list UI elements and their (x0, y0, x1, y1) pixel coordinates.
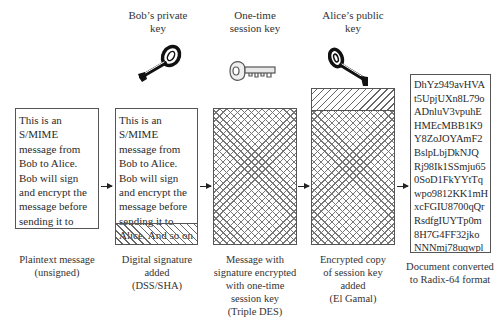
alice-public-key-label: Alice’s public key (303, 9, 403, 35)
encrypted-content-pattern (214, 109, 296, 244)
bob-private-key-label: Bob’s private key (108, 9, 208, 35)
alice-public-key-icon (328, 46, 372, 88)
signed-message-box: This is an S/MIME message from Bob to Al… (115, 108, 198, 245)
caption-session-key-copy: Encrypted copy of session key added (El … (298, 253, 408, 305)
digital-signature-block (116, 223, 197, 244)
caption-encrypted-message: Message with signature encrypted with on… (196, 253, 314, 318)
encrypted-session-key-block (312, 89, 394, 111)
bob-private-key-icon (133, 42, 185, 84)
arrow-2-to-3 (200, 186, 211, 187)
radix64-text: DhYz949avHVA t5UpjUXn8L79o ADnluV3vpuhE … (411, 75, 490, 253)
arrow-4-to-5 (397, 186, 408, 187)
session-key-icon (227, 58, 279, 84)
encrypted-message-box (213, 108, 297, 245)
plaintext-message-box: This is an S/MIME message from Bob to Al… (15, 108, 99, 229)
encrypted-content-pattern (312, 111, 394, 244)
plaintext-message-text: This is an S/MIME message from Bob to Al… (16, 109, 98, 229)
radix64-document-box: DhYz949avHVA t5UpjUXn8L79o ADnluV3vpuhE … (410, 74, 491, 253)
caption-plaintext: Plaintext message (unsigned) (2, 253, 112, 279)
encrypted-with-session-key-box (311, 88, 395, 245)
arrow-1-to-2 (101, 186, 112, 187)
session-key-label: One-time session key (205, 9, 305, 35)
caption-radix64: Document converted to Radix-64 format (395, 260, 503, 286)
arrow-3-to-4 (298, 186, 309, 187)
